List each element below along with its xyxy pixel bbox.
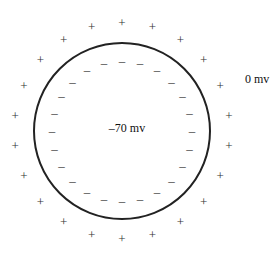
minus-charge-icon: – bbox=[136, 55, 144, 70]
plus-charge-icon: + bbox=[37, 194, 44, 209]
minus-charge-icon: – bbox=[83, 62, 91, 77]
minus-charge-icon: – bbox=[118, 53, 126, 68]
minus-charge-icon: – bbox=[185, 105, 193, 120]
minus-charge-icon: – bbox=[48, 123, 56, 138]
minus-charge-icon: – bbox=[68, 173, 76, 188]
plus-charge-icon: + bbox=[20, 78, 27, 93]
plus-charge-icon: + bbox=[88, 227, 95, 242]
plus-charge-icon: + bbox=[20, 168, 27, 183]
membrane-potential-diagram: ++++++++++++++++++++++ –––––––––––––––––… bbox=[0, 0, 278, 257]
minus-charge-icon: – bbox=[100, 191, 108, 206]
plus-charge-icon: + bbox=[118, 231, 125, 246]
plus-charge-icon: + bbox=[200, 52, 207, 67]
plus-charge-icon: + bbox=[88, 19, 95, 34]
minus-charge-icon: – bbox=[178, 158, 186, 173]
minus-charge-icon: – bbox=[57, 88, 65, 103]
minus-charge-icon: – bbox=[178, 88, 186, 103]
plus-charge-icon: + bbox=[149, 19, 156, 34]
plus-charge-icon: + bbox=[60, 32, 67, 47]
minus-charge-icon: – bbox=[100, 55, 108, 70]
plus-charge-icon: + bbox=[11, 138, 18, 153]
minus-charge-icon: – bbox=[136, 191, 144, 206]
minus-charge-icon: – bbox=[50, 141, 58, 156]
minus-charge-icon: – bbox=[185, 141, 193, 156]
plus-charge-icon: + bbox=[149, 227, 156, 242]
minus-charge-icon: – bbox=[68, 74, 76, 89]
minus-charge-icon: – bbox=[188, 123, 196, 138]
minus-charge-icon: – bbox=[50, 105, 58, 120]
plus-charge-icon: + bbox=[217, 78, 224, 93]
outside-potential-label: 0 mv bbox=[245, 72, 269, 86]
plus-charge-icon: + bbox=[11, 108, 18, 123]
minus-charge-icon: – bbox=[83, 184, 91, 199]
minus-charge-icon: – bbox=[167, 173, 175, 188]
plus-charge-icon: + bbox=[177, 32, 184, 47]
inside-potential-label: –70 mv bbox=[108, 121, 145, 135]
plus-charge-icon: + bbox=[177, 214, 184, 229]
plus-charge-icon: + bbox=[217, 168, 224, 183]
minus-charge-icon: – bbox=[118, 193, 126, 208]
minus-charge-icon: – bbox=[153, 62, 161, 77]
minus-charge-icon: – bbox=[153, 184, 161, 199]
plus-charge-icon: + bbox=[200, 194, 207, 209]
minus-charge-icon: – bbox=[167, 74, 175, 89]
minus-charge-icon: – bbox=[57, 158, 65, 173]
plus-charge-icon: + bbox=[225, 138, 232, 153]
plus-charge-icon: + bbox=[60, 214, 67, 229]
plus-charge-icon: + bbox=[118, 15, 125, 30]
plus-charge-icon: + bbox=[225, 108, 232, 123]
plus-charge-icon: + bbox=[37, 52, 44, 67]
